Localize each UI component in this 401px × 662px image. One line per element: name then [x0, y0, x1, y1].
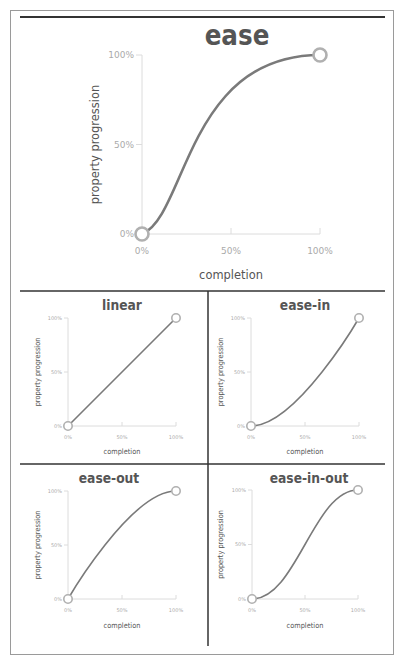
chart-title: ease-out — [79, 470, 140, 486]
timing-curve — [251, 318, 359, 426]
chart-title: ease-in-out — [270, 470, 349, 486]
chart-ease-in-out: ease-in-out0%0%50%50%100%100%completionp… — [216, 470, 366, 630]
x-tick-label: 100% — [169, 607, 184, 613]
chart-title: linear — [102, 297, 142, 313]
end-point-marker — [172, 487, 180, 495]
chart-ease-in: ease-in0%0%50%50%100%100%completionprope… — [216, 297, 367, 456]
y-tick-label: 0% — [54, 423, 62, 429]
end-point-marker — [355, 314, 363, 322]
x-tick-label: 0% — [135, 246, 150, 256]
y-axis-label: property progression — [33, 511, 43, 580]
chart-title: ease — [205, 20, 270, 52]
y-axis-label: property progression — [216, 338, 226, 407]
x-tick-label: 100% — [307, 246, 333, 256]
start-point-marker — [64, 595, 72, 603]
y-tick-label: 50% — [235, 541, 246, 547]
x-tick-label: 50% — [116, 607, 127, 613]
start-point-marker — [247, 422, 255, 430]
x-tick-label: 0% — [248, 607, 256, 613]
y-tick-label: 100% — [232, 487, 247, 493]
start-point-marker — [64, 422, 72, 430]
end-point-marker — [172, 314, 180, 322]
x-tick-label: 50% — [221, 246, 241, 256]
x-axis-label: completion — [199, 267, 263, 282]
y-tick-label: 0% — [238, 596, 246, 602]
x-tick-label: 50% — [299, 607, 310, 613]
y-tick-label: 50% — [234, 369, 245, 375]
x-axis-label: completion — [287, 621, 324, 631]
chart-ease-out: ease-out0%0%50%50%100%100%completionprop… — [33, 470, 184, 630]
y-tick-label: 50% — [51, 369, 62, 375]
timing-curve — [252, 490, 358, 599]
y-axis-label: property progression — [87, 85, 102, 204]
chart-linear: linear0%0%50%50%100%100%completionproper… — [33, 297, 184, 456]
chart-ease: ease0%0%50%50%100%100%completionproperty… — [87, 20, 333, 283]
x-tick-label: 50% — [299, 434, 310, 440]
end-point-marker — [314, 49, 327, 62]
y-tick-label: 50% — [51, 542, 62, 548]
x-tick-label: 100% — [352, 434, 367, 440]
end-point-marker — [354, 486, 362, 494]
x-tick-label: 0% — [64, 607, 72, 613]
x-axis-label: completion — [104, 621, 141, 631]
y-tick-label: 100% — [48, 315, 63, 321]
timing-curve — [142, 55, 320, 234]
y-tick-label: 100% — [108, 50, 134, 60]
y-tick-label: 100% — [231, 315, 246, 321]
y-tick-label: 0% — [120, 229, 135, 239]
timing-curve — [68, 318, 176, 426]
y-axis-label: property progression — [33, 338, 43, 407]
x-tick-label: 100% — [351, 607, 366, 613]
start-point-marker — [136, 228, 149, 241]
y-tick-label: 100% — [48, 488, 63, 494]
y-tick-label: 0% — [237, 423, 245, 429]
timing-functions-figure: ease0%0%50%50%100%100%completionproperty… — [0, 0, 401, 662]
y-axis-label: property progression — [216, 510, 226, 579]
y-tick-label: 0% — [54, 596, 62, 602]
y-tick-label: 50% — [114, 140, 134, 150]
timing-curve — [68, 491, 176, 599]
x-tick-label: 0% — [64, 434, 72, 440]
x-axis-label: completion — [104, 447, 141, 457]
x-axis-label: completion — [287, 447, 324, 457]
start-point-marker — [248, 595, 256, 603]
chart-title: ease-in — [280, 297, 330, 313]
x-tick-label: 0% — [247, 434, 255, 440]
x-tick-label: 100% — [169, 434, 184, 440]
x-tick-label: 50% — [116, 434, 127, 440]
